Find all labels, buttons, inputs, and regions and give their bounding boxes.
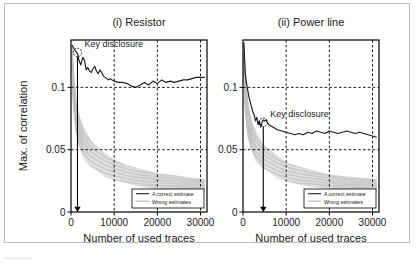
legend-label-correct: A correct estimate	[324, 191, 366, 197]
xtick-label: 0	[240, 217, 246, 228]
xtick-label: 20000	[315, 217, 343, 228]
legend-label-wrong: Wrong estimates	[152, 199, 191, 205]
xaxis-label-power-line: Number of used traces	[255, 232, 367, 244]
xtick-label: 30000	[187, 217, 215, 228]
xtick-label: 0	[68, 217, 74, 228]
yaxis-label: Max. of correlation	[17, 81, 29, 171]
panel-title-power-line: (ii) Power line	[278, 16, 345, 28]
key-disclosure-label: Key disclosure	[270, 109, 329, 119]
figure-frame: (i) ResistorKey disclosure01000020000300…	[4, 3, 410, 243]
ytick-label: 0.1	[224, 82, 238, 93]
xtick-label: 10000	[272, 217, 300, 228]
legend-label-wrong: Wrong estimates	[324, 199, 363, 205]
key-disclosure-label: Key disclosure	[84, 39, 143, 49]
xtick-label: 20000	[143, 217, 171, 228]
chart-panel-resistor: (i) ResistorKey disclosure01000020000300…	[46, 16, 215, 244]
legend-power-line: A correct estimateWrong estimates	[304, 189, 376, 208]
ytick-label: 0.1	[52, 82, 66, 93]
xtick-label: 30000	[359, 217, 387, 228]
panel-title-resistor: (i) Resistor	[112, 16, 166, 28]
figure-caption: ————	[4, 254, 33, 260]
ytick-label: 0	[232, 207, 238, 218]
chart-panel-power-line: (ii) Power lineKey disclosure01000020000…	[218, 16, 387, 244]
ytick-label: 0.05	[46, 144, 66, 155]
figure-canvas: (i) ResistorKey disclosure01000020000300…	[5, 4, 411, 244]
legend-resistor: A correct estimateWrong estimates	[132, 189, 204, 208]
legend-label-correct: A correct estimate	[152, 191, 194, 197]
ytick-label: 0	[60, 207, 66, 218]
figure-caption-strip: ————	[4, 246, 410, 260]
ytick-label: 0.05	[218, 144, 238, 155]
xaxis-label-resistor: Number of used traces	[83, 232, 195, 244]
xtick-label: 10000	[100, 217, 128, 228]
